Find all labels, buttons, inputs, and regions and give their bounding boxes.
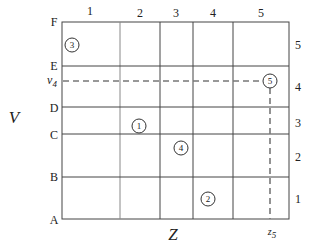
grid-border xyxy=(62,22,289,219)
col-label-4: 4 xyxy=(210,7,216,19)
z5-label: z5 xyxy=(268,226,276,241)
col-label-2: 2 xyxy=(137,7,143,19)
v4-label: v4 xyxy=(47,74,57,90)
point-1: 1 xyxy=(132,119,147,134)
point-2: 2 xyxy=(201,192,216,207)
col-label-5: 5 xyxy=(258,7,264,19)
point-5: 5 xyxy=(263,74,278,89)
point-4: 4 xyxy=(174,141,189,156)
row-label-B: B xyxy=(50,171,58,183)
grid-diagram xyxy=(0,0,311,249)
row-label-E: E xyxy=(50,60,57,72)
row-label-A: A xyxy=(50,214,59,226)
row-label-C: C xyxy=(50,129,58,141)
axis-label-z: Z xyxy=(168,225,177,245)
right-label-2: 2 xyxy=(295,151,301,163)
point-3: 3 xyxy=(65,38,80,53)
col-label-1: 1 xyxy=(87,5,93,17)
right-label-1: 1 xyxy=(295,193,301,205)
right-label-4: 4 xyxy=(295,81,301,93)
col-label-3: 3 xyxy=(173,7,179,19)
right-label-3: 3 xyxy=(295,117,301,129)
row-label-F: F xyxy=(51,16,58,28)
axis-label-v: V xyxy=(9,108,19,128)
row-label-D: D xyxy=(50,102,59,114)
right-label-5: 5 xyxy=(295,39,301,51)
